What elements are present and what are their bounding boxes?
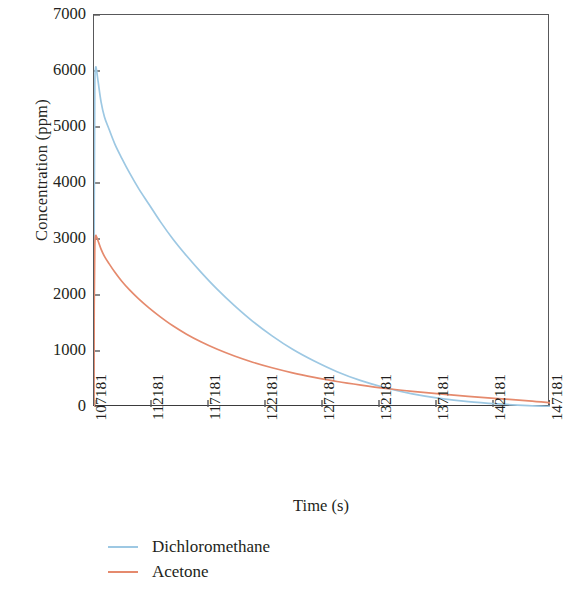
data-series-line — [94, 67, 550, 407]
x-axis-tick-label: 127181 — [321, 374, 337, 454]
x-axis-tick-label: 117181 — [207, 374, 223, 454]
chart-legend: DichloromethaneAcetone — [108, 534, 438, 584]
y-axis-tick-label: 0 — [28, 398, 86, 415]
x-axis-tick-label: 112181 — [150, 374, 166, 454]
plot-area — [93, 14, 549, 406]
legend-item[interactable]: Dichloromethane — [108, 534, 438, 559]
x-axis-tick-label: 137181 — [435, 374, 451, 454]
x-axis-tick-label: 132181 — [378, 374, 394, 454]
y-axis-tick-label: 4000 — [28, 174, 86, 191]
legend-item[interactable]: Acetone — [108, 559, 438, 584]
x-axis-tick-label: 147181 — [549, 374, 565, 454]
legend-item-label: Acetone — [152, 563, 209, 580]
x-axis-tick-labels: 1071811121811171811221811271811321811371… — [93, 406, 549, 496]
y-axis-tick-label: 6000 — [28, 62, 86, 79]
x-axis-tick-label: 142181 — [492, 374, 508, 454]
legend-color-swatch — [108, 546, 138, 548]
x-axis-tick-label: 122181 — [264, 374, 280, 454]
y-axis-tick-label: 5000 — [28, 118, 86, 135]
y-axis-tick-labels: 01000200030004000500060007000 — [28, 0, 86, 592]
y-axis-tick-label: 3000 — [28, 230, 86, 247]
y-axis-tick-label: 7000 — [28, 6, 86, 23]
x-axis-title: Time (s) — [93, 496, 549, 516]
legend-item-label: Dichloromethane — [152, 538, 270, 555]
y-axis-tick-label: 1000 — [28, 342, 86, 359]
x-axis-tick-label: 107181 — [93, 374, 109, 454]
legend-color-swatch — [108, 571, 138, 573]
y-axis-tick-label: 2000 — [28, 286, 86, 303]
series-canvas — [94, 15, 550, 407]
